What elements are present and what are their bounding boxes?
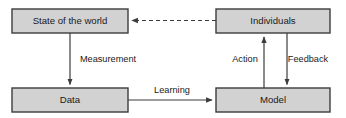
node-data-label: Data [60, 94, 81, 105]
edge-action: Action [232, 37, 264, 88]
edge-action-label: Action [232, 54, 258, 64]
node-model[interactable]: Model [216, 88, 330, 112]
edge-learning: Learning [128, 85, 212, 100]
diagram-svg: Measurement Learning Action Feedback Sta… [0, 0, 346, 118]
node-state-of-the-world-label: State of the world [33, 15, 108, 26]
edge-feedback: Feedback [287, 33, 329, 85]
node-individuals[interactable]: Individuals [216, 9, 330, 33]
diagram-canvas: Measurement Learning Action Feedback Sta… [0, 0, 346, 118]
node-data[interactable]: Data [12, 88, 128, 112]
node-state-of-the-world[interactable]: State of the world [12, 9, 128, 33]
node-individuals-label: Individuals [250, 15, 296, 26]
edge-feedback-label: Feedback [288, 54, 329, 64]
node-model-label: Model [260, 94, 286, 105]
edge-measurement-label: Measurement [80, 54, 137, 64]
edge-learning-label: Learning [154, 85, 190, 95]
edge-measurement: Measurement [70, 33, 137, 85]
